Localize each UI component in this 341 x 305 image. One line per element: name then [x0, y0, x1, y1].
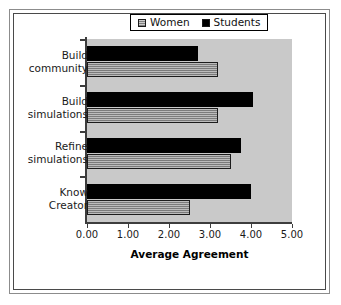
category-label-line: Know [8, 186, 88, 199]
x-tick-label-5: 5.00 [272, 229, 312, 240]
y-tick-3 [80, 176, 85, 178]
bar-women-0 [87, 62, 218, 77]
category-label-line: simulations [8, 108, 88, 121]
bar-students-3 [87, 184, 251, 199]
category-label-line: Creator [8, 199, 88, 212]
x-tick-label-4: 4.00 [231, 229, 271, 240]
category-label-line: simulations [8, 153, 88, 166]
x-tick-2 [169, 224, 170, 228]
category-label-line: Build [8, 95, 88, 108]
bar-students-0 [87, 46, 198, 61]
x-tick-4 [251, 224, 252, 228]
bar-women-1 [87, 108, 218, 123]
x-tick-label-3: 3.00 [190, 229, 230, 240]
black-swatch-icon [202, 19, 210, 27]
category-label-3: KnowCreator [8, 186, 88, 212]
x-axis-line [85, 222, 292, 224]
category-label-line: Refine [8, 140, 88, 153]
x-tick-1 [128, 224, 129, 228]
x-axis-title: Average Agreement [87, 248, 292, 260]
legend-label-women: Women [150, 17, 190, 28]
bar-women-3 [87, 200, 190, 215]
category-label-line: Build [8, 49, 88, 62]
legend-entry-students: Students [202, 17, 261, 28]
x-tick-5 [292, 224, 293, 228]
category-label-line: community [8, 62, 88, 75]
y-tick-1 [80, 85, 85, 87]
category-label-2: Refinesimulations [8, 140, 88, 166]
x-tick-label-1: 1.00 [108, 229, 148, 240]
x-tick-label-2: 2.00 [149, 229, 189, 240]
bar-students-2 [87, 138, 241, 153]
x-tick-3 [210, 224, 211, 228]
legend-entry-women: Women [138, 17, 190, 28]
category-label-1: Buildsimulations [8, 95, 88, 121]
x-tick-0 [87, 224, 88, 228]
gray-hatch-swatch-icon [138, 19, 146, 27]
y-tick-2 [80, 131, 85, 133]
bar-women-2 [87, 154, 231, 169]
legend-label-students: Students [214, 17, 261, 28]
chart-legend: Women Students [130, 14, 268, 31]
bar-students-1 [87, 92, 253, 107]
y-tick-top [80, 39, 85, 41]
x-tick-label-0: 0.00 [67, 229, 107, 240]
category-label-0: Buildcommunity [8, 49, 88, 75]
